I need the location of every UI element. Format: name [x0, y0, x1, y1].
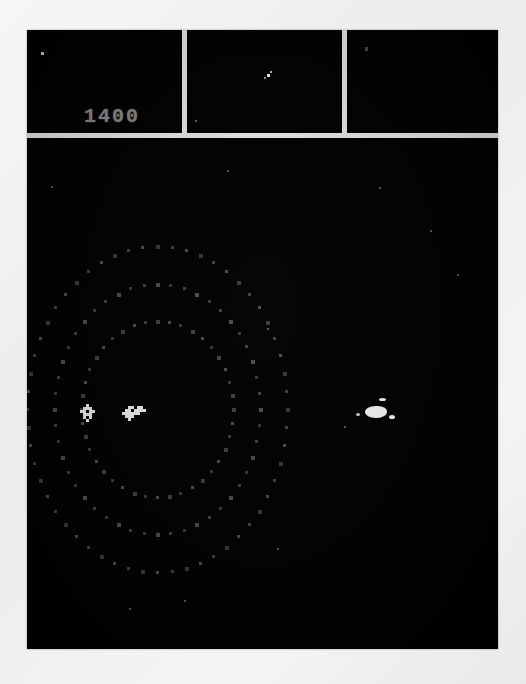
ring-dot [64, 523, 68, 527]
star-dot [430, 230, 432, 232]
ring-dot [237, 535, 240, 538]
ring-dot [208, 300, 211, 303]
ring-dot [179, 324, 182, 327]
sprite-pixel [143, 409, 146, 412]
playfield[interactable] [27, 138, 498, 649]
ring-dot [61, 456, 65, 460]
ring-dot [95, 460, 98, 463]
ring-dot [279, 462, 283, 466]
ring-dot [75, 281, 79, 285]
ring-dot [27, 408, 29, 411]
ring-dot [81, 394, 85, 398]
ring-dot [225, 270, 228, 273]
star-dot [51, 186, 53, 188]
score-display: 1400 [84, 107, 140, 127]
ring-dot [57, 376, 60, 379]
ring-dot [266, 321, 270, 325]
ring-dot [228, 435, 231, 438]
ring-dot [84, 381, 87, 384]
ring-dot [88, 448, 91, 451]
ring-dot [168, 495, 172, 499]
ring-dot [141, 570, 145, 574]
ring-dot [54, 424, 57, 427]
ring-dot [144, 321, 147, 324]
ring-dot [283, 372, 287, 376]
star-dot [227, 170, 229, 172]
ring-dot [185, 567, 189, 571]
ring-dot [156, 245, 160, 249]
ring-dot [258, 306, 261, 309]
ring-dot [258, 392, 261, 395]
explosion-spark [389, 415, 395, 419]
panel-sprite-dot [41, 52, 44, 55]
ring-dot [57, 440, 60, 443]
ring-dot [100, 555, 104, 559]
ring-dot [27, 390, 30, 393]
ring-dot [88, 368, 91, 371]
ring-dot [113, 562, 116, 565]
ring-dot [219, 507, 222, 510]
ring-dot [283, 444, 286, 447]
ring-dot [129, 287, 132, 290]
ring-dot [143, 532, 146, 535]
ring-dot [39, 337, 42, 340]
ring-dot [286, 408, 290, 412]
ring-dot [266, 495, 269, 498]
ring-dot [251, 360, 255, 364]
panel-divider-1 [182, 30, 187, 133]
ring-dot [75, 535, 78, 538]
ring-dot [228, 381, 231, 384]
ring-dot [217, 356, 221, 360]
ring-dot [169, 284, 172, 287]
ring-dot [169, 532, 172, 535]
ring-dot [279, 354, 282, 357]
explosion-blob [365, 406, 387, 418]
ring-dot [95, 356, 99, 360]
ring-dot [191, 486, 194, 489]
ring-dot [258, 510, 262, 514]
ring-dot [245, 345, 248, 348]
ring-dot [93, 309, 96, 312]
ring-dot [29, 372, 33, 376]
ring-dot [210, 470, 213, 473]
ring-dot [201, 337, 204, 340]
sprite-pixel [89, 416, 92, 419]
ring-dot [201, 479, 205, 483]
ring-dot [54, 392, 57, 395]
ring-dot [74, 332, 77, 335]
ring-dot [129, 529, 132, 532]
ring-dot [67, 346, 70, 349]
ring-dot [255, 440, 258, 443]
sprite-pixel [92, 410, 95, 413]
ring-dot [229, 496, 233, 500]
ring-dot [93, 507, 96, 510]
ring-dot [104, 300, 107, 303]
ring-dot [212, 555, 215, 558]
ring-dot [245, 471, 248, 474]
ring-dot [224, 368, 227, 371]
star-dot [129, 608, 131, 610]
ring-dot [156, 320, 160, 324]
ring-dot [117, 523, 121, 527]
ring-dot [144, 495, 147, 498]
ring-dot [54, 510, 57, 513]
status-panel-center [187, 30, 342, 133]
star-dot [277, 548, 279, 550]
ring-dot [84, 435, 88, 439]
star-dot [457, 274, 459, 276]
ring-dot [255, 376, 258, 379]
ring-dot [248, 523, 251, 526]
sprite-pixel [128, 418, 131, 421]
ring-dot [127, 567, 130, 570]
star-dot [267, 328, 269, 330]
ring-dot [168, 321, 171, 324]
ring-dot [229, 320, 233, 324]
ring-dot [83, 496, 87, 500]
explosion-spark [379, 398, 386, 401]
ring-dot [179, 492, 182, 495]
ring-dot [208, 516, 211, 519]
ring-dot [224, 448, 228, 452]
game-screen[interactable]: 1400 [27, 30, 498, 649]
ring-dot [74, 484, 77, 487]
ring-dot [61, 360, 65, 364]
